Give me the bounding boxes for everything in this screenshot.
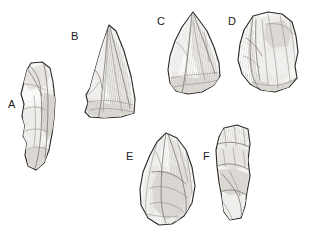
artifact-b-drawing <box>84 24 138 120</box>
artifact-a-drawing <box>18 60 58 172</box>
figure-label-a: A <box>8 99 16 110</box>
figure-label-d: D <box>228 16 236 27</box>
artifact-illustrations <box>0 0 319 238</box>
figure-label-c: C <box>157 16 165 27</box>
figure-label-b: B <box>71 31 79 42</box>
artifact-plate: A B C D E F <box>0 0 319 238</box>
artifact-d-drawing <box>238 12 300 96</box>
figure-label-e: E <box>126 151 134 162</box>
figure-label-f: F <box>203 151 210 162</box>
artifact-e-drawing <box>138 130 196 226</box>
artifact-c-drawing <box>166 10 222 96</box>
artifact-f-drawing <box>214 124 252 222</box>
